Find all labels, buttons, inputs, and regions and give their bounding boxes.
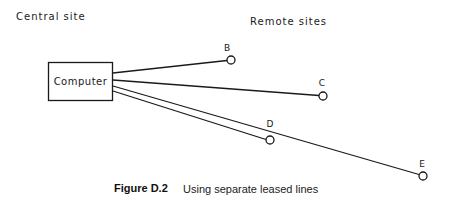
- figure-caption: Using separate leased lines: [183, 183, 319, 195]
- figure-number: Figure D.2: [114, 182, 168, 194]
- site-d-node: [266, 136, 274, 144]
- line-to-b: [113, 61, 227, 74]
- site-c-node: [319, 92, 327, 100]
- network-diagram: Central site Remote sites Computer B C D…: [0, 0, 452, 201]
- line-to-c: [113, 80, 319, 96]
- computer-label: Computer: [54, 76, 108, 87]
- site-e-node: [419, 172, 427, 180]
- site-b-node: [227, 56, 235, 64]
- line-to-d: [113, 91, 266, 140]
- site-b-label: B: [224, 43, 230, 53]
- site-d-label: D: [267, 119, 274, 129]
- computer-node: Computer: [49, 63, 113, 101]
- site-e-label: E: [419, 159, 425, 169]
- central-site-heading: Central site: [16, 11, 86, 22]
- leased-lines: [113, 61, 419, 175]
- remote-sites-heading: Remote sites: [250, 16, 327, 27]
- line-to-e: [113, 86, 419, 175]
- site-c-label: C: [319, 78, 325, 88]
- remote-site-nodes: [227, 56, 427, 180]
